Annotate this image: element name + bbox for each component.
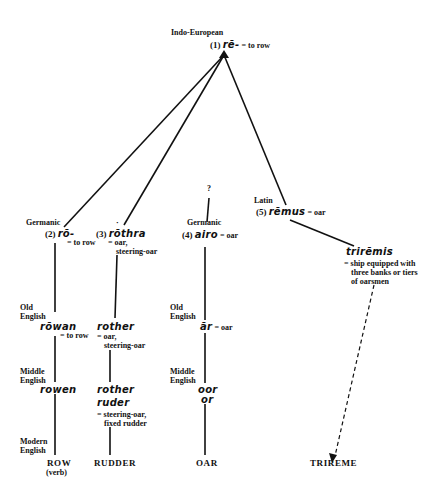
modern-word-row-note: (verb) bbox=[46, 468, 67, 478]
ar-gloss: = oar bbox=[214, 323, 232, 332]
modern-word-trireme: TRIREME bbox=[310, 458, 357, 468]
rother-oe-gloss-2: steering-oar bbox=[104, 341, 145, 351]
line-remus-to-triremis bbox=[290, 220, 354, 246]
rother-me-form: rother bbox=[97, 385, 134, 395]
ar-form: ār bbox=[200, 321, 212, 332]
modern-word-oar: OAR bbox=[196, 458, 218, 468]
root-entry: (1) rē- = to row bbox=[210, 40, 270, 51]
root-gloss: = to row bbox=[242, 41, 270, 50]
ro-gloss: = to row bbox=[67, 238, 95, 248]
modern-english-label-2: English bbox=[20, 446, 46, 456]
remus-form: rēmus bbox=[269, 206, 306, 217]
root-form: rē- bbox=[223, 39, 240, 50]
modern-word-row: ROW bbox=[47, 458, 71, 468]
root-arrowhead bbox=[219, 50, 229, 58]
rowen-form: rowen bbox=[40, 385, 76, 395]
germanic-ro-family-label: Germanic bbox=[26, 218, 60, 228]
rothra-gloss-2: steering-oar bbox=[116, 247, 157, 257]
oar-old-english-label-2: English bbox=[170, 312, 196, 322]
rother-oe-form: rother bbox=[97, 322, 134, 332]
oar-middle-english-label-2: English bbox=[170, 376, 196, 386]
line-root-to-germanic-ro bbox=[64, 55, 224, 227]
root-number: (1) bbox=[210, 40, 221, 50]
rowan-gloss: = to row bbox=[60, 331, 88, 341]
line-root-to-latin-remus bbox=[224, 55, 286, 205]
germanic-airo-family-label: Germanic bbox=[187, 218, 221, 228]
airo-number: (4) bbox=[182, 230, 193, 240]
airo-gloss: = oar bbox=[220, 231, 238, 240]
remus-gloss: = oar bbox=[307, 208, 325, 217]
line-triremis-to-trireme-dashed bbox=[335, 285, 374, 456]
ruder-me-form: ruder bbox=[97, 398, 129, 408]
remus-number: (5) bbox=[256, 207, 267, 217]
rothra-asterisk: · bbox=[116, 218, 119, 228]
rothra-number: (3) bbox=[96, 229, 107, 239]
remus-entry: (5) rēmus = oar bbox=[256, 207, 326, 218]
airo-form: airo bbox=[195, 229, 218, 240]
airo-origin-unknown: ? bbox=[207, 184, 211, 194]
modern-word-rudder: RUDDER bbox=[94, 458, 136, 468]
line-rothra-to-rother bbox=[115, 255, 117, 318]
triremis-form: trirēmis bbox=[346, 247, 393, 257]
airo-entry: (4) airo = oar bbox=[182, 230, 238, 241]
latin-family-label: Latin bbox=[254, 196, 273, 206]
ar-entry: ār = oar bbox=[200, 322, 233, 333]
root-family-label: Indo-European bbox=[171, 28, 223, 38]
ro-number: (2) bbox=[45, 229, 56, 239]
triremis-gloss-3: of oarsmen bbox=[351, 277, 389, 287]
or-form: or bbox=[201, 395, 213, 405]
ruder-gloss-2: fixed rudder bbox=[104, 419, 147, 429]
etymology-tree-diagram: Indo-European (1) rē- = to row Germanic … bbox=[0, 0, 440, 500]
